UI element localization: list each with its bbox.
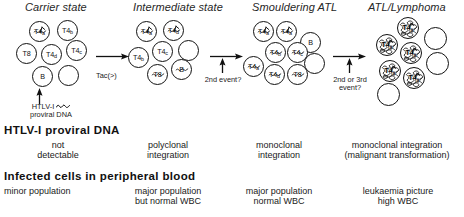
receptor-antenna-icon	[263, 19, 271, 37]
cell-smouldering-t4b-3: T4b	[265, 42, 286, 63]
proviral-smouldering-line2: integration	[232, 150, 326, 160]
cell-intermediate-b-6: B	[171, 59, 192, 80]
cell-smouldering-t4d-7: T4d	[264, 64, 285, 85]
proviral-atl-line2: (malignant transformation)	[330, 150, 464, 160]
cell-label: T4c	[153, 48, 172, 55]
cell-label: T8	[17, 50, 36, 57]
cell-atl-t4a-0: T4a	[397, 17, 419, 39]
cell-intermediate-t4c-3: T4c	[152, 41, 173, 62]
cell-atl-t4a-5: T4a	[379, 60, 401, 82]
infection-note-line2: proviral DNA	[14, 111, 88, 120]
figure-canvas: Carrier state Intermediate state Smoulde…	[0, 0, 464, 217]
proviral-squiggle-icon	[175, 58, 188, 76]
cell-carrier-t4d-3: T4d	[41, 44, 62, 65]
cell-label: T4b	[58, 27, 77, 34]
cell-carrier-t4c-4: T4c	[66, 40, 87, 61]
receptor-antenna-icon	[390, 58, 398, 76]
receptor-antenna-icon	[387, 32, 395, 50]
cell-atl-empty-1	[424, 27, 447, 50]
arrow-smouldering-to-atl	[333, 47, 366, 56]
blood-smouldering-line1: major population	[232, 186, 326, 196]
cell-label: T4d	[42, 51, 61, 58]
cell-atl-t4a-2: T4a	[376, 34, 398, 56]
receptor-antenna-icon	[414, 65, 422, 83]
cell-cluster-smouldering: T4aT4aBT4bT4cT4aT4dT8	[243, 20, 328, 88]
section-title-proviral-dna: HTLV-I proviral DNA	[4, 124, 120, 136]
proviral-intermediate-line2: integration	[118, 150, 218, 160]
cell-carrier-t4b-1: T4b	[57, 20, 78, 41]
cell-cluster-atl: T4aT4aT4aT4aT4a	[371, 17, 456, 109]
receptor-antenna-icon	[408, 15, 416, 33]
proviral-squiggle-icon	[291, 63, 304, 81]
proviral-carrier-line2: detectable	[10, 150, 106, 160]
cell-atl-empty-4	[426, 52, 449, 75]
transition-label-tac: Tac(>)	[96, 72, 136, 81]
receptor-antenna-icon	[411, 40, 419, 58]
cell-carrier-t8-2: T8	[16, 43, 37, 64]
cell-smouldering-t8-8: T8	[287, 64, 308, 85]
arrow-2nd-event	[218, 58, 227, 73]
cell-smouldering-t4a-0: T4a	[253, 21, 274, 42]
receptor-antenna-icon	[173, 18, 181, 36]
cell-smouldering-t4a-6: T4a	[243, 56, 264, 77]
cell-atl-t4a-3: T4a	[400, 42, 422, 64]
arrow-carrier-to-intermediate	[96, 47, 129, 56]
cell-intermediate-t8-5: T8	[147, 64, 168, 85]
transition-label-2nd-event: 2nd event?	[199, 76, 247, 85]
stage-title-smouldering: Smouldering ATL	[252, 1, 337, 13]
receptor-antenna-icon	[286, 19, 294, 37]
blood-atl-line1: leukaemia picture	[338, 186, 458, 196]
transition-label-2nd-or-3rd-line2: event?	[324, 84, 376, 93]
proviral-smouldering-line1: monoclonal	[232, 140, 326, 150]
cell-label: T4b	[129, 54, 148, 61]
blood-atl-line2: high WBC	[338, 196, 458, 206]
cell-carrier-empty-6	[58, 65, 79, 86]
blood-smouldering-line2: normal WBC	[232, 196, 326, 206]
cell-carrier-t4a-0: T4a	[29, 21, 50, 42]
blood-intermediate-line2: but normal WBC	[118, 196, 218, 206]
stage-title-atl: ATL/Lymphoma	[368, 1, 446, 13]
blood-intermediate-line1: major population	[118, 186, 218, 196]
cell-carrier-b-5: B	[32, 66, 53, 87]
cell-smouldering-t4a-1: T4a	[276, 21, 297, 42]
receptor-antenna-icon	[39, 19, 47, 37]
proviral-squiggle-icon	[269, 41, 282, 59]
cell-intermediate-t4a-0: T4a	[136, 21, 157, 42]
proviral-squiggle-icon	[268, 63, 281, 81]
proviral-squiggle-icon	[151, 63, 164, 81]
proviral-intermediate-line1: polyclonal	[118, 140, 218, 150]
cell-atl-empty-7	[377, 83, 400, 106]
proviral-squiggle-icon	[291, 41, 304, 59]
arrow-2nd-or-3rd-event	[345, 58, 354, 73]
proviral-carrier-line1: not	[10, 140, 106, 150]
cell-cluster-intermediate: T4aT4dT4bT4cT8B	[128, 20, 203, 88]
receptor-antenna-icon	[146, 19, 154, 37]
blood-carrier-line1: minor population	[4, 186, 114, 196]
stage-title-carrier: Carrier state	[25, 1, 87, 13]
section-title-peripheral-blood: Infected cells in peripheral blood	[4, 170, 195, 182]
cell-intermediate-t4d-1: T4d	[163, 20, 184, 41]
proviral-squiggle-icon	[247, 55, 260, 73]
cell-cluster-carrier: T4aT4bT8T4dT4cB	[16, 20, 91, 90]
cell-intermediate-t4b-2: T4b	[128, 47, 149, 68]
proviral-atl-line1: monoclonal integration	[330, 140, 464, 150]
cell-label: B	[33, 73, 52, 80]
stage-title-intermediate: Intermediate state	[133, 1, 223, 13]
cell-atl-t4a-6: T4a	[403, 67, 425, 89]
cell-label: T4c	[67, 47, 86, 54]
arrow-intermediate-to-smouldering	[210, 47, 243, 56]
